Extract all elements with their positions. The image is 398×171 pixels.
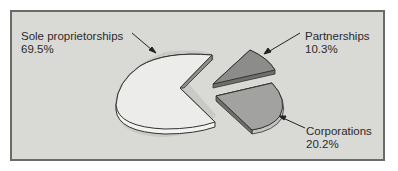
slice-sole-proprietorships [115, 51, 216, 137]
label-name: Corporations [306, 125, 372, 138]
label-name: Partnerships [305, 30, 370, 43]
slice-corporations [216, 83, 284, 134]
label-value: 69.5% [21, 43, 123, 56]
label-corporations: Corporations 20.2% [306, 125, 372, 151]
label-name: Sole proprietorships [21, 30, 123, 43]
label-sole-proprietorships: Sole proprietorships 69.5% [21, 30, 123, 56]
slice-partnerships [213, 50, 275, 88]
label-value: 10.3% [305, 43, 370, 56]
label-partnerships: Partnerships 10.3% [305, 30, 370, 56]
label-value: 20.2% [306, 138, 372, 151]
